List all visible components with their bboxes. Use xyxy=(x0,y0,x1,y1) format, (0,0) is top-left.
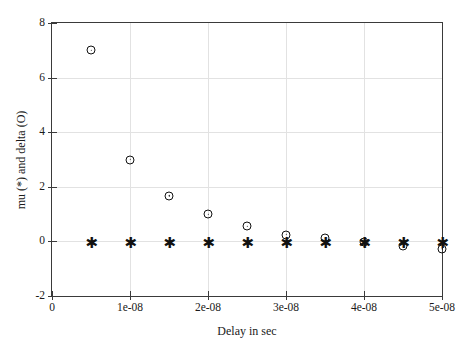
gridline-horizontal xyxy=(52,78,442,79)
x-axis-tick-inner xyxy=(130,291,131,296)
x-axis-tick-label: 3e-08 xyxy=(273,302,299,314)
plot-area: -20246801e-082e-083e-084e-085e-08✱✱✱✱✱✱✱… xyxy=(51,22,443,297)
data-point-star: ✱ xyxy=(320,237,331,248)
x-axis-title-text: Delay in sec xyxy=(217,324,276,338)
gridline-vertical xyxy=(130,23,131,296)
data-point-circle xyxy=(165,191,174,200)
x-axis-tick-label: 1e-08 xyxy=(117,302,143,314)
y-axis-title: mu (*) and delta (O) xyxy=(14,22,28,297)
y-axis-tick-label: 6 xyxy=(39,72,45,84)
x-axis-tick xyxy=(364,296,365,300)
gridline-horizontal xyxy=(52,132,442,133)
y-axis-tick-label: -2 xyxy=(35,290,45,302)
figure-canvas: -20246801e-082e-083e-084e-085e-08✱✱✱✱✱✱✱… xyxy=(0,0,473,350)
x-axis-title: Delay in sec xyxy=(51,325,443,337)
gridline-vertical xyxy=(208,23,209,296)
y-axis-tick-inner xyxy=(52,241,57,242)
x-axis-tick-inner xyxy=(52,291,53,296)
x-axis-tick xyxy=(286,296,287,300)
x-axis-tick xyxy=(130,296,131,300)
x-axis-tick xyxy=(52,296,53,300)
y-axis-tick-label: 4 xyxy=(39,126,45,138)
y-axis-tick-label: 0 xyxy=(39,236,45,248)
data-point-circle xyxy=(243,222,252,231)
gridline-horizontal xyxy=(52,187,442,188)
gridline-horizontal xyxy=(52,241,442,242)
data-point-circle xyxy=(87,46,96,55)
y-axis-tick-inner xyxy=(52,78,57,79)
data-point-star: ✱ xyxy=(86,237,97,248)
data-point-star: ✱ xyxy=(437,237,448,248)
data-point-circle xyxy=(438,244,447,253)
x-axis-tick-label: 5e-08 xyxy=(429,302,455,314)
y-axis-tick-inner xyxy=(52,23,57,24)
data-point-star: ✱ xyxy=(164,237,175,248)
y-axis-tick-label: 8 xyxy=(39,17,45,29)
x-axis-tick-label: 2e-08 xyxy=(195,302,221,314)
x-axis-tick-inner xyxy=(208,291,209,296)
y-axis-tick-label: 2 xyxy=(39,181,45,193)
y-axis-tick-inner xyxy=(52,187,57,188)
x-axis-tick-label: 4e-08 xyxy=(351,302,377,314)
y-axis-tick-inner xyxy=(52,132,57,133)
x-axis-tick-inner xyxy=(364,291,365,296)
data-point-star: ✱ xyxy=(242,237,253,248)
x-axis-tick-inner xyxy=(442,291,443,296)
data-point-star: ✱ xyxy=(398,237,409,248)
gridline-vertical xyxy=(286,23,287,296)
x-axis-tick xyxy=(208,296,209,300)
x-axis-tick xyxy=(442,296,443,300)
y-axis-title-text: mu (*) and delta (O) xyxy=(15,110,27,209)
gridline-vertical xyxy=(364,23,365,296)
x-axis-tick-inner xyxy=(286,291,287,296)
data-point-circle xyxy=(399,242,408,251)
x-axis-tick-label: 0 xyxy=(49,302,55,314)
